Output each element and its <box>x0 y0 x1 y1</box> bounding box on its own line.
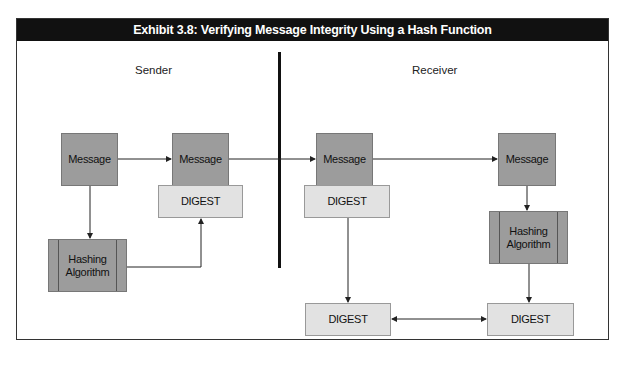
sender-packet-message-label: Message <box>179 153 222 166</box>
receiver-hashing-label-2: Algorithm <box>507 238 551 251</box>
sender-label: Sender <box>135 64 172 76</box>
sender-hashing-algorithm-box: Hashing Algorithm <box>48 239 127 292</box>
receiver-hashing-label-1: Hashing <box>509 225 547 238</box>
sender-packet-digest-label: DIGEST <box>181 195 220 208</box>
sender-message-label: Message <box>68 153 111 166</box>
sender-receiver-divider <box>278 52 281 268</box>
sender-hashing-label-2: Algorithm <box>66 266 110 279</box>
sender-packet-digest-box: DIGEST <box>158 185 243 218</box>
sender-packet-message-box: Message <box>172 133 229 186</box>
receiver-computed-digest-box: DIGEST <box>487 303 574 336</box>
receiver-received-digest-label: DIGEST <box>328 313 367 326</box>
receiver-received-digest-box: DIGEST <box>305 303 391 336</box>
receiver-message-label: Message <box>506 153 549 166</box>
receiver-hashing-algorithm-box: Hashing Algorithm <box>489 211 568 264</box>
sender-hashing-label-1: Hashing <box>68 253 106 266</box>
sender-message-box: Message <box>61 133 118 186</box>
receiver-label: Receiver <box>412 64 457 76</box>
exhibit-title: Exhibit 3.8: Verifying Message Integrity… <box>17 19 608 41</box>
receiver-packet-digest-label: DIGEST <box>327 195 366 208</box>
receiver-packet-message-box: Message <box>316 133 373 186</box>
receiver-computed-digest-label: DIGEST <box>511 313 550 326</box>
receiver-packet-message-label: Message <box>323 153 366 166</box>
receiver-packet-digest-box: DIGEST <box>304 185 390 218</box>
receiver-message-box: Message <box>498 133 556 186</box>
